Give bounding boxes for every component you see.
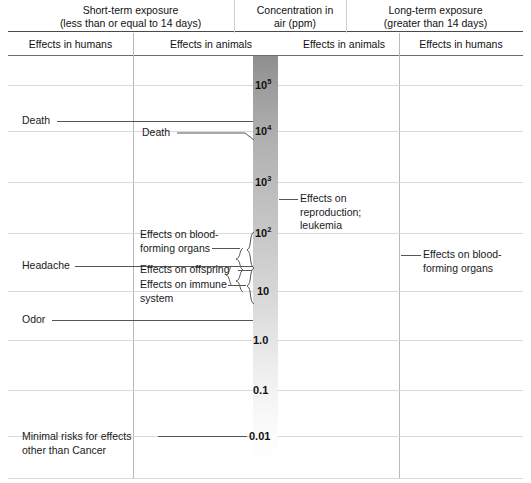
tick-base-1em1: 0.1 bbox=[253, 384, 268, 396]
header-group-short-term: Short-term exposure (less than or equal … bbox=[8, 4, 253, 30]
leader-death-human bbox=[57, 121, 253, 122]
annotation-immune-line2: system bbox=[140, 292, 173, 304]
leader-odor bbox=[52, 320, 253, 321]
tick-label-1e4: 104 bbox=[255, 125, 271, 137]
annotation-blood-animal-line2: forming organs bbox=[140, 242, 210, 254]
header-group-long-term-line2: (greater than 14 days) bbox=[348, 17, 523, 30]
tick-base-1e1: 10 bbox=[257, 285, 269, 297]
tick-exp-1e4: 4 bbox=[267, 123, 271, 132]
tick-base-1em2: 0.01 bbox=[249, 430, 270, 442]
annotation-death-animal: Death bbox=[142, 126, 170, 140]
tick-label-1em1: 0.1 bbox=[253, 384, 268, 396]
annotation-blood-animal-line1: Effects on blood- bbox=[140, 228, 219, 240]
tick-exp-1e3: 3 bbox=[267, 174, 271, 183]
header-group-short-term-line1: Short-term exposure bbox=[8, 4, 253, 17]
tick-base-1e5: 10 bbox=[255, 79, 267, 91]
header-group-long-term-line1: Long-term exposure bbox=[348, 4, 523, 17]
tick-base-1e2: 10 bbox=[255, 227, 267, 239]
header-group-concentration-line1: Concentration in bbox=[236, 4, 354, 17]
brace-animal-effects-inner bbox=[236, 248, 245, 292]
annotation-immune-line1: Effects on immune bbox=[140, 278, 227, 290]
annotation-blood-human: Effects on blood- forming organs bbox=[423, 248, 527, 275]
header-group-concentration-line2: air (ppm) bbox=[236, 17, 354, 30]
tick-base-1e4: 10 bbox=[255, 125, 267, 137]
leader-reproduction-leukemia bbox=[279, 199, 298, 200]
leader-death-animal bbox=[177, 126, 255, 140]
tick-label-1e3: 103 bbox=[255, 176, 271, 188]
column-header-effects-humans-short: Effects in humans bbox=[8, 38, 133, 50]
exposure-concentration-chart: Short-term exposure (less than or equal … bbox=[0, 0, 531, 483]
annotation-minimal-risks: Minimal risks for effects other than Can… bbox=[22, 430, 162, 457]
tick-exp-1e2: 2 bbox=[267, 225, 271, 234]
header-group-long-term: Long-term exposure (greater than 14 days… bbox=[348, 4, 523, 30]
header-group-concentration: Concentration in air (ppm) bbox=[236, 4, 354, 30]
tick-label-1e0: 1.0 bbox=[253, 334, 268, 346]
annotation-reproduction-leukemia: Effects on reproduction; leukemia bbox=[300, 192, 396, 233]
divider-col3-col4 bbox=[399, 33, 400, 479]
annotation-blood-human-line1: Effects on blood- bbox=[423, 248, 502, 260]
annotation-reproduction-line1: Effects on bbox=[300, 192, 347, 204]
column-header-effects-humans-long: Effects in humans bbox=[399, 38, 523, 50]
tick-exp-1e5: 5 bbox=[267, 77, 271, 86]
annotation-headache: Headache bbox=[22, 259, 70, 273]
annotation-odor: Odor bbox=[22, 313, 45, 327]
header-rule-top bbox=[8, 31, 523, 32]
annotation-reproduction-line3: leukemia bbox=[300, 219, 342, 231]
tick-label-1e2: 102 bbox=[255, 227, 271, 239]
leader-blood-human bbox=[401, 255, 421, 256]
divider-col1-col2 bbox=[133, 33, 134, 479]
leader-minimal-risks bbox=[158, 436, 247, 437]
annotation-death-human: Death bbox=[22, 114, 50, 128]
column-header-effects-animals-long: Effects in animals bbox=[289, 38, 399, 50]
tick-base-1e3: 10 bbox=[255, 176, 267, 188]
annotation-minimal-risks-line1: Minimal risks for effects bbox=[22, 430, 132, 442]
annotation-reproduction-line2: reproduction; bbox=[300, 206, 361, 218]
gridline-bottom bbox=[8, 478, 523, 479]
divider-header-right bbox=[346, 0, 347, 33]
brace-offspring-immune bbox=[226, 266, 234, 286]
tick-label-1e1: 10 bbox=[257, 285, 269, 297]
column-header-effects-animals-short: Effects in animals bbox=[133, 38, 289, 50]
brace-animal-effects-outer bbox=[246, 232, 256, 304]
concentration-gradient-bar bbox=[253, 56, 278, 468]
header-group-short-term-line2: (less than or equal to 14 days) bbox=[8, 17, 253, 30]
tick-label-1e5: 105 bbox=[255, 79, 271, 91]
tick-base-1e0: 1.0 bbox=[253, 334, 268, 346]
annotation-blood-human-line2: forming organs bbox=[423, 262, 493, 274]
tick-label-1em2: 0.01 bbox=[249, 430, 270, 442]
annotation-offspring: Effects on offspring bbox=[140, 263, 230, 277]
divider-header-left bbox=[234, 0, 235, 33]
annotation-minimal-risks-line2: other than Cancer bbox=[22, 444, 106, 456]
